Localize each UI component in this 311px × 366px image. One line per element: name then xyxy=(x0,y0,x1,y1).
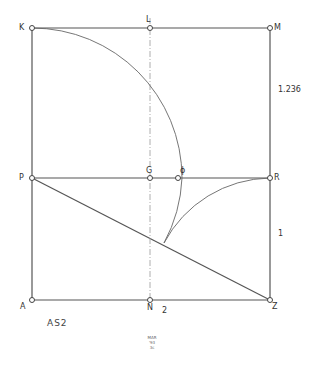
golden-ratio-construction xyxy=(0,0,311,366)
signature-mark: MAR '93 3c xyxy=(140,335,164,350)
label-Z: Z xyxy=(272,303,277,311)
point-L xyxy=(148,26,153,31)
label-L: L xyxy=(146,16,150,24)
point-M xyxy=(268,26,273,31)
label-G: G xyxy=(146,167,152,175)
dimension-lower-right: 1 xyxy=(278,230,283,238)
label-N: N xyxy=(147,304,153,312)
point-K xyxy=(30,26,35,31)
point-N xyxy=(148,298,153,303)
arc-K-to-diagonal xyxy=(32,28,182,243)
arc-R-to-diagonal xyxy=(164,178,270,243)
point-P xyxy=(30,176,35,181)
diagonal-PZ xyxy=(32,178,270,300)
point-R xyxy=(268,176,273,181)
label-P: P xyxy=(19,174,24,182)
label-M: M xyxy=(274,24,281,32)
dimension-upper-right: 1.236 xyxy=(278,86,301,94)
signature-line-3: 3c xyxy=(140,345,164,350)
point-G xyxy=(148,176,153,181)
dimension-bottom: 2 xyxy=(162,307,167,315)
label-K: K xyxy=(19,24,24,32)
label-phi: ϕ xyxy=(180,167,185,175)
point-phi xyxy=(176,176,181,181)
point-A xyxy=(30,298,35,303)
figure-caption: AS2 xyxy=(47,318,68,328)
label-A: A xyxy=(20,303,25,311)
label-R: R xyxy=(274,174,280,182)
